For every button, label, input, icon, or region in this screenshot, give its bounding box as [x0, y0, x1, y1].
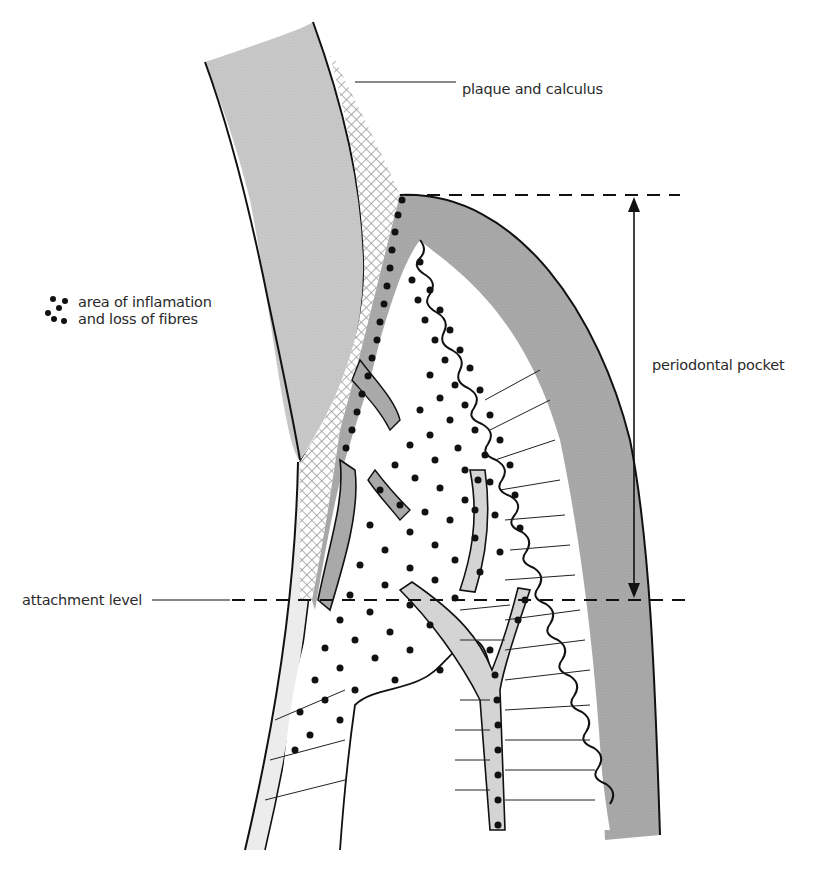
diagram-canvas — [0, 0, 834, 878]
label-inflammation: area of inflamation and loss of fibres — [78, 294, 212, 328]
dot-cluster-icon — [42, 294, 72, 328]
label-inflammation-line2: and loss of fibres — [78, 311, 212, 328]
arrow-up-icon — [628, 197, 640, 212]
label-attachment-level: attachment level — [22, 592, 142, 609]
periodontal-pocket-diagram: plaque and calculus area of inflamation … — [0, 0, 834, 878]
label-periodontal-pocket: periodontal pocket — [652, 357, 784, 374]
label-inflammation-line1: area of inflamation — [78, 294, 212, 311]
label-plaque-calculus: plaque and calculus — [462, 81, 603, 98]
